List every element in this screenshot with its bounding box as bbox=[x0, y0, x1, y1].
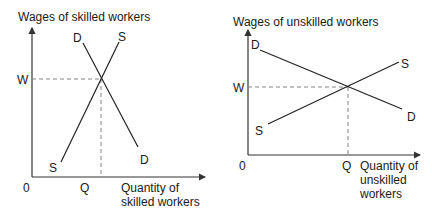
demand-curve-label-top: D bbox=[73, 31, 82, 45]
demand-curve bbox=[260, 50, 402, 109]
supply-curve-label-bottom: S bbox=[255, 124, 263, 138]
x-axis-label-line1: Quantity of bbox=[121, 181, 180, 195]
supply-curve-label-bottom: S bbox=[49, 161, 57, 175]
supply-curve bbox=[268, 62, 399, 124]
y-axis-label: Wages of unskilled workers bbox=[233, 15, 379, 29]
x-axis-label-line2: skilled workers bbox=[121, 195, 200, 209]
y-axis-label: Wages of skilled workers bbox=[18, 10, 150, 24]
wage-label: W bbox=[233, 81, 245, 95]
supply-curve-label-top: S bbox=[401, 57, 409, 71]
supply-curve bbox=[61, 42, 119, 162]
demand-curve-label-top: D bbox=[251, 38, 260, 52]
x-axis-label-line3: workers bbox=[359, 187, 402, 201]
origin-label: 0 bbox=[239, 159, 246, 173]
quantity-label: Q bbox=[80, 181, 89, 195]
x-axis-label-line1: Quantity of bbox=[360, 159, 419, 173]
origin-label: 0 bbox=[23, 181, 30, 195]
x-axis-label-line2: unskilled bbox=[360, 173, 407, 187]
demand-curve-label-bottom: D bbox=[407, 110, 416, 124]
wage-label: W bbox=[17, 73, 29, 87]
unskilled-labour-market-diagram: Wages of unskilled workers D S D S W 0 Q… bbox=[233, 15, 420, 201]
quantity-label: Q bbox=[342, 159, 351, 173]
skilled-labour-market-diagram: Wages of skilled workers D S D S W 0 Q Q… bbox=[17, 10, 205, 209]
supply-curve-label-top: S bbox=[118, 30, 126, 44]
demand-curve-label-bottom: D bbox=[140, 153, 149, 167]
